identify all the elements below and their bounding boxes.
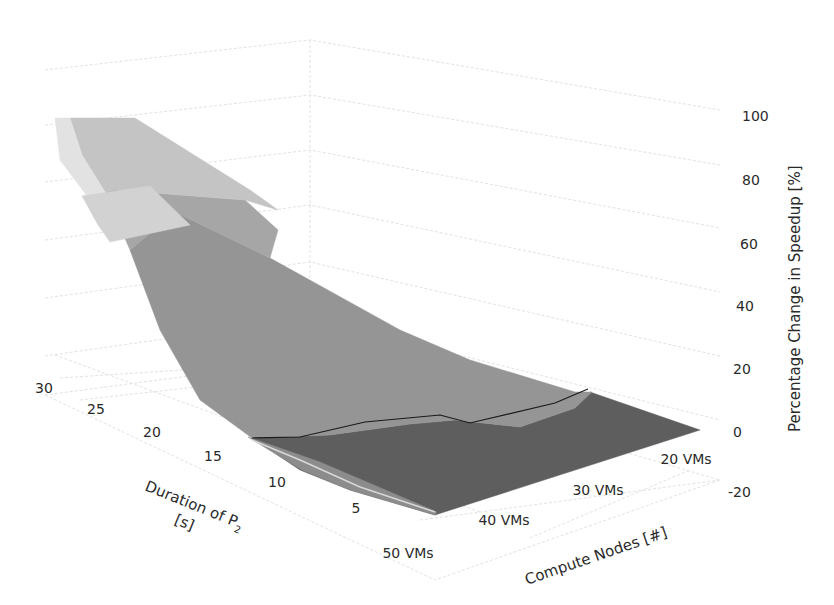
z-axis-ticks: 100806040200-20 xyxy=(728,108,769,500)
y-axis-tick-label: 10 xyxy=(268,474,286,490)
surface-band-lower xyxy=(130,212,592,438)
x-axis-title: Compute Nodes [#] xyxy=(522,523,669,589)
z-axis-tick-label: 40 xyxy=(736,298,754,314)
z-axis-tick-label: 100 xyxy=(742,108,769,124)
x-axis-tick-label: 30 VMs xyxy=(572,482,623,498)
y-axis-tick-label: 15 xyxy=(204,448,222,464)
z-axis-tick-label: 60 xyxy=(740,236,758,252)
surface-chart: 100806040200-20 30252015105 50 VMs40 VMs… xyxy=(0,0,834,605)
svg-text:Duration of P2: Duration of P2 xyxy=(141,477,246,536)
y-axis-tick-label: 20 xyxy=(143,424,161,440)
z-axis-title: Percentage Change in Speedup [%] xyxy=(786,165,804,432)
x-axis-tick-label: 20 VMs xyxy=(660,451,711,467)
x-axis-tick-label: 40 VMs xyxy=(478,512,529,528)
z-axis-tick-label: 20 xyxy=(733,361,751,377)
z-axis-tick-label: 80 xyxy=(742,172,760,188)
surface-plot xyxy=(55,118,700,515)
z-axis-tick-label: -20 xyxy=(728,484,751,500)
y-axis-tick-label: 25 xyxy=(87,401,105,417)
z-axis-tick-label: 0 xyxy=(733,424,742,440)
y-axis-tick-label: 30 xyxy=(35,380,53,396)
x-axis-tick-label: 50 VMs xyxy=(382,545,433,561)
y-axis-title: Duration of P2 [s] xyxy=(135,477,246,551)
y-axis-tick-label: 5 xyxy=(352,500,361,516)
